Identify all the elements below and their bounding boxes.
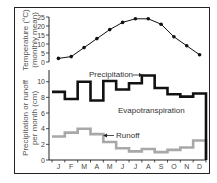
svg-text:S: S — [159, 163, 164, 170]
svg-text:N: N — [184, 163, 189, 170]
svg-text:15: 15 — [37, 32, 45, 39]
svg-text:A: A — [146, 163, 151, 170]
svg-text:J: J — [121, 163, 125, 170]
svg-text:D: D — [197, 163, 202, 170]
svg-text:8: 8 — [41, 94, 45, 101]
svg-text:M: M — [107, 163, 113, 170]
svg-text:6: 6 — [41, 110, 45, 117]
svg-text:A: A — [95, 163, 100, 170]
svg-text:O: O — [171, 163, 177, 170]
svg-text:4: 4 — [41, 125, 45, 132]
svg-text:10: 10 — [37, 78, 45, 85]
precip-axis-label: Precipitation or runoff — [21, 79, 30, 156]
svg-text:J: J — [57, 163, 61, 170]
svg-text:0: 0 — [41, 157, 45, 164]
precipitation-label: Precipitation — [89, 70, 133, 79]
svg-text:2: 2 — [41, 141, 45, 148]
svg-text:J: J — [134, 163, 138, 170]
svg-text:0: 0 — [41, 59, 45, 66]
svg-text:25: 25 — [37, 14, 45, 21]
svg-text:20: 20 — [37, 23, 45, 30]
svg-text:5: 5 — [41, 50, 45, 57]
svg-text:10: 10 — [37, 41, 45, 48]
climate-chart: Temperature (°C) (monthly mean) Precipit… — [0, 0, 217, 183]
svg-text:F: F — [69, 163, 73, 170]
svg-text:M: M — [81, 163, 87, 170]
evapotranspiration-label: Evapotranspiration — [118, 106, 185, 115]
precip-axis-sublabel: per month (cm) — [30, 91, 39, 146]
temperature-axis-label: Temperature (°C) — [21, 9, 30, 71]
runoff-label: Runoff — [116, 131, 140, 140]
